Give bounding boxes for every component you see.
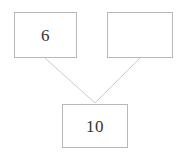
connector-left-to-sum xyxy=(45,58,95,103)
node-addend-left-value: 6 xyxy=(41,27,50,44)
node-sum[interactable]: 10 xyxy=(62,104,128,148)
node-sum-value: 10 xyxy=(86,118,104,135)
number-bond-diagram: 6 10 xyxy=(0,0,184,155)
node-addend-left[interactable]: 6 xyxy=(14,12,77,58)
connector-right-to-sum xyxy=(95,58,140,103)
node-addend-right[interactable] xyxy=(107,12,173,58)
